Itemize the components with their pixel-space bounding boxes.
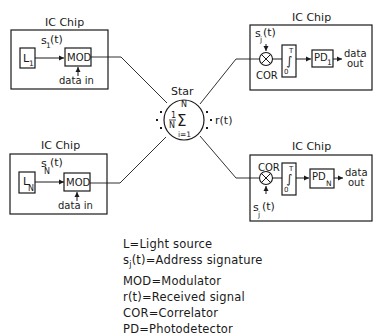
received-signal-label: r(t) — [215, 114, 232, 127]
signature-arg: (t) — [263, 26, 276, 39]
signature-sub: j — [259, 35, 262, 44]
sum-upper: N — [181, 100, 187, 109]
legend-item: r(t)=Received signal — [123, 289, 263, 305]
light-source-sub: 1 — [29, 59, 34, 68]
data-out-line2: out — [348, 177, 364, 188]
photodetector-sub: N — [326, 179, 332, 188]
photodetector-sub: 1 — [327, 58, 332, 67]
fraction-den: N — [169, 121, 175, 130]
modulator-label: MOD — [66, 177, 90, 188]
integrator-lower: 0 — [284, 186, 288, 194]
sum-lower: i=1 — [178, 130, 191, 139]
chip-label: IC Chip — [292, 11, 331, 24]
legend-item: PD=Photodetector — [123, 321, 263, 334]
legend-item: COR=Correlator — [123, 305, 263, 321]
legend: L=Light source sj(t)=Address signature M… — [123, 236, 263, 334]
signature-sub: j — [257, 210, 260, 219]
photodetector-label: PD — [312, 171, 326, 182]
transmitter-1: IC Chip L 1 s 1 (t) MOD data in — [11, 16, 167, 103]
star-coupler: Star 1 N N Σ i=1 r(t) — [156, 59, 236, 178]
chip-label: IC Chip — [41, 139, 80, 152]
integrator-lower: 0 — [284, 68, 288, 76]
transmitter-n: IC Chip L N s N (t) MOD data in — [10, 137, 166, 214]
photodetector-label: PD — [314, 52, 328, 63]
receiver-1: IC Chip s j (t) COR T ∫ 0 PD 1 data out — [236, 11, 372, 90]
data-in-label: data in — [59, 75, 94, 86]
chip-label: IC Chip — [292, 140, 331, 153]
modulator-label: MOD — [67, 52, 91, 63]
data-in-label: data in — [58, 200, 93, 211]
signature-arg: (t) — [50, 33, 63, 46]
chip-label: IC Chip — [45, 16, 84, 29]
signature-arg: (t) — [262, 200, 275, 213]
integral-icon: ∫ — [286, 172, 292, 186]
sum-symbol: Σ — [177, 112, 186, 130]
fiber-link-rxn — [200, 136, 236, 178]
receiver-n: IC Chip COR s j (t) T ∫ 0 PD N data out — [236, 140, 372, 221]
correlator-label: COR — [256, 70, 278, 81]
integral-icon: ∫ — [286, 54, 292, 68]
light-source-sub: N — [28, 184, 34, 193]
legend-item: MOD=Modulator — [123, 273, 263, 289]
star-label: Star — [171, 85, 194, 98]
correlator-label: COR — [258, 162, 280, 173]
legend-item: L=Light source — [123, 236, 263, 252]
data-out-line2: out — [347, 58, 363, 69]
fiber-link-txn — [90, 137, 166, 183]
fiber-link-tx1 — [91, 57, 167, 103]
signature-arg: (t) — [50, 156, 63, 169]
fraction-num: 1 — [171, 111, 176, 120]
fiber-link-rx1 — [200, 59, 236, 104]
legend-item: sj(t)=Address signature — [123, 252, 263, 273]
